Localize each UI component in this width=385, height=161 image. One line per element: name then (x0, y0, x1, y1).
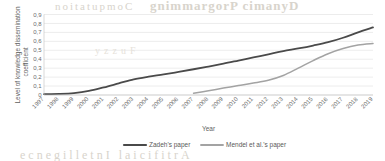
y-tick-label: 0,3 (33, 65, 42, 71)
x-tick-label: 2005 (151, 96, 165, 110)
x-tick-label: 2015 (300, 96, 314, 110)
series-lines (44, 27, 373, 94)
series-line-1 (44, 27, 373, 94)
x-tick-label: 2019 (360, 96, 374, 110)
x-tick-label: 2003 (121, 96, 135, 110)
x-tick-label: 2001 (91, 96, 105, 110)
x-tick-label: 2002 (106, 96, 120, 110)
x-tick-label: 2011 (241, 95, 255, 109)
y-axis-title-line1: Level of knowledge dissemination (14, 6, 22, 104)
x-tick-label: 2014 (285, 96, 299, 110)
y-tick-label: 0,5 (33, 47, 42, 53)
x-tick-label: 2007 (181, 96, 195, 110)
y-tick-label: 0,8 (33, 21, 42, 27)
gridlines (44, 15, 373, 96)
x-axis-tick-labels: 1997199819992000200120022003200420052006… (31, 95, 374, 109)
y-tick-label: 0,1 (33, 83, 42, 89)
x-tick-label: 2016 (315, 96, 329, 110)
y-tick-label: 0,7 (33, 29, 42, 35)
x-tick-label: 2017 (330, 96, 344, 110)
x-tick-label: 2013 (270, 96, 284, 110)
chart-figure: gnimmargorP cimanyD noitatupmoC yzzuF ec… (0, 0, 385, 161)
legend-label-series-1: Zadeh's paper (149, 141, 191, 149)
x-tick-label: 1997 (31, 96, 45, 110)
legend-label-series-2: Mendel et al.'s paper (226, 141, 287, 149)
line-chart: 0,90,80,70,60,50,40,30,20,10 19971998199… (0, 0, 385, 161)
x-tick-label: 2008 (196, 96, 210, 110)
y-tick-label: 0,9 (33, 12, 42, 18)
x-tick-label: 1998 (46, 96, 60, 110)
x-tick-label: 2012 (255, 96, 269, 110)
x-tick-label: 2018 (345, 96, 359, 110)
x-axis-title: Year (202, 125, 216, 132)
axis-lines (44, 15, 373, 96)
chart-legend: Zadeh's paper Mendel et al.'s paper (124, 141, 287, 149)
y-axis-title-line2: coefficient (22, 47, 29, 76)
x-tick-label: 2000 (76, 96, 90, 110)
x-tick-label: 2006 (166, 96, 180, 110)
x-tick-label: 2004 (136, 96, 150, 110)
x-tick-label: 1999 (61, 96, 75, 110)
y-tick-label: 0,2 (33, 74, 42, 80)
y-axis-tick-labels: 0,90,80,70,60,50,40,30,20,10 (33, 12, 42, 99)
y-tick-label: 0,6 (33, 38, 42, 44)
x-tick-label: 2010 (225, 96, 239, 110)
x-tick-label: 2009 (210, 96, 224, 110)
y-tick-label: 0,4 (33, 56, 42, 62)
